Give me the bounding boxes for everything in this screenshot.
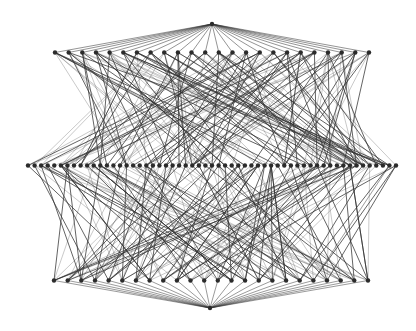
graph-node-bottom-row (202, 278, 206, 282)
graph-node-bottom-row (106, 278, 110, 282)
graph-node-bottom-row (339, 278, 343, 282)
graph-node-bottom-row (188, 278, 192, 282)
graph-node-middle-row (203, 163, 207, 167)
graph-node-bottom-row (229, 278, 233, 282)
graph-node-middle-row (138, 163, 142, 167)
graph-node-top-row (121, 50, 125, 54)
graph-node-top-row (176, 50, 180, 54)
graph-node-middle-row (269, 163, 273, 167)
graph-node-middle-row (282, 163, 286, 167)
graph-node-middle-row (368, 163, 372, 167)
graph-node-middle-row (164, 163, 168, 167)
graph-edge (368, 166, 370, 281)
graph-node-middle-row (243, 163, 247, 167)
graph-node-middle-row (170, 163, 174, 167)
graph-node-top-row (258, 50, 262, 54)
graph-edge (110, 24, 212, 53)
graph-node-middle-row (144, 163, 148, 167)
graph-edge (123, 24, 212, 53)
graph-node-middle-row (315, 163, 319, 167)
graph-node-middle-row (105, 163, 109, 167)
graph-node-bottom-row (284, 278, 288, 282)
graph-node-top-row (285, 50, 289, 54)
graph-node-middle-row (236, 163, 240, 167)
graph-node-middle-row (249, 163, 253, 167)
graph-node-middle-row (262, 163, 266, 167)
graph-node-top-row (312, 50, 316, 54)
graph-node-top-row (326, 50, 330, 54)
graph-node-middle-row (289, 163, 293, 167)
graph-node-top-row (203, 50, 207, 54)
graph-node-bottom-row (216, 278, 220, 282)
graph-node-middle-row (308, 163, 312, 167)
graph-node-top-row (230, 50, 234, 54)
graph-edge (212, 24, 342, 53)
graph-node-middle-row (72, 163, 76, 167)
graph-node-bottom-row (175, 278, 179, 282)
graph-node-middle-row (256, 163, 260, 167)
graph-node-middle-row (223, 163, 227, 167)
graph-node-middle-row (210, 163, 214, 167)
graph-node-middle-row (131, 163, 135, 167)
graph-node-top-row (80, 50, 84, 54)
graph-node-middle-row (92, 163, 96, 167)
graph-node-top-row (148, 50, 152, 54)
graph-node-middle-row (190, 163, 194, 167)
graph-node-middle-row (65, 163, 69, 167)
graph-node-top-row (94, 50, 98, 54)
graph-edge (212, 24, 314, 53)
graph-edge (327, 166, 330, 281)
graph-node-middle-row (177, 163, 181, 167)
graph-node-bottom-row (134, 278, 138, 282)
graph-node-bottom-row (298, 278, 302, 282)
graph-node-middle-row (387, 163, 391, 167)
graph-node-middle-row (52, 163, 56, 167)
graph-node-middle-row (328, 163, 332, 167)
graph-node-middle-row (374, 163, 378, 167)
graph-node-middle-row (295, 163, 299, 167)
graph-node-middle-row (151, 163, 155, 167)
graph-node-top-row (367, 50, 371, 54)
graph-node-top-row (53, 50, 57, 54)
graph-node-middle-row (32, 163, 36, 167)
graph-node-bottom-apex (208, 306, 212, 310)
graph-node-bottom-row (257, 278, 261, 282)
graph-edge (210, 281, 354, 309)
graph-edge (210, 281, 313, 309)
graph-node-top-row (162, 50, 166, 54)
graph-edge (81, 281, 210, 309)
graph-node-bottom-row (120, 278, 124, 282)
graph-node-bottom-row (52, 278, 56, 282)
graph-node-middle-row (348, 163, 352, 167)
graph-node-middle-row (276, 163, 280, 167)
graph-node-middle-row (216, 163, 220, 167)
graph-edge (82, 24, 212, 53)
graph-edge (95, 281, 210, 309)
graph-edge (177, 166, 206, 281)
graph-node-middle-row (98, 163, 102, 167)
graph-node-top-row (67, 50, 71, 54)
graph-node-middle-row (335, 163, 339, 167)
graph-node-bottom-row (147, 278, 151, 282)
graph-node-middle-row (394, 163, 398, 167)
graph-node-middle-row (322, 163, 326, 167)
graph-node-top-row (244, 50, 248, 54)
graph-node-middle-row (124, 163, 128, 167)
graph-node-bottom-row (366, 278, 370, 282)
graph-node-top-row (135, 50, 139, 54)
graph-node-middle-row (361, 163, 365, 167)
graph-node-bottom-row (161, 278, 165, 282)
graph-node-middle-row (85, 163, 89, 167)
graph-node-bottom-row (66, 278, 70, 282)
graph-node-top-row (189, 50, 193, 54)
graph-node-bottom-row (79, 278, 83, 282)
graph-node-top-apex (210, 22, 214, 26)
graph-edge (219, 166, 355, 281)
graph-node-middle-row (230, 163, 234, 167)
graph-node-middle-row (39, 163, 43, 167)
graph-edge (212, 24, 301, 53)
graph-node-middle-row (197, 163, 201, 167)
graph-node-middle-row (341, 163, 345, 167)
graph-edge (327, 166, 396, 281)
graph-node-middle-row (46, 163, 50, 167)
